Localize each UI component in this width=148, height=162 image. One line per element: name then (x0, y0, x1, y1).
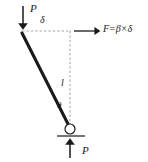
load-label-top: P (30, 3, 37, 14)
equals-sign: = (109, 23, 116, 34)
deflection-symbol: δ (127, 23, 132, 34)
angle-label: θ (57, 101, 61, 110)
deflection-label: δ (40, 15, 45, 25)
reaction-label-bottom: P (82, 145, 89, 156)
stiffness-symbol: β (116, 23, 121, 34)
length-label: l (61, 78, 64, 88)
pin-support-circle (65, 124, 75, 134)
mechanics-diagram-figure: P δ l θ F=β×δ P (0, 0, 148, 162)
force-equation-label: F=β×δ (103, 24, 132, 34)
